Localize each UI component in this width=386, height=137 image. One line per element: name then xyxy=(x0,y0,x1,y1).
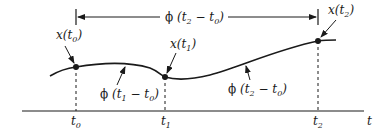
label-x-t0: x(t0) xyxy=(56,28,82,63)
leader-arrow-x-t2 xyxy=(321,20,336,37)
tick-label-t2: t2 xyxy=(313,114,323,130)
point-x-t0 xyxy=(73,64,79,70)
tick-label-t1: t1 xyxy=(161,114,171,130)
svg-text:ϕ (t1 − t0): ϕ (t1 − t0) xyxy=(100,87,159,103)
top-span-indicator: ϕ (t2 − t0) xyxy=(76,9,318,26)
label-phi-t2-t0: ϕ (t2 − t0) xyxy=(228,66,287,98)
axis-label-t: t xyxy=(367,114,372,128)
tick-label-t0: t0 xyxy=(71,114,81,130)
leader-arrow-phi-t2-t0 xyxy=(246,66,250,80)
point-x-t2 xyxy=(315,38,321,44)
svg-text:x(t2): x(t2) xyxy=(328,3,354,19)
leader-arrow-phi-t1-t0 xyxy=(117,67,125,85)
svg-text:x(t0): x(t0) xyxy=(56,28,82,44)
svg-text:x(t1): x(t1) xyxy=(170,37,196,53)
svg-text:ϕ (t2 − t0): ϕ (t2 − t0) xyxy=(228,82,287,98)
point-x-t1 xyxy=(162,74,168,80)
state-transition-diagram: ϕ (t2 − t0) x(t0) x(t1) x(t2) ϕ (t1 − t0… xyxy=(0,0,386,137)
leader-arrow-x-t1 xyxy=(167,53,176,73)
top-span-label: ϕ (t2 − t0) xyxy=(165,10,224,26)
label-x-t1: x(t1) xyxy=(167,37,196,73)
label-phi-t1-t0: ϕ (t1 − t0) xyxy=(100,67,159,103)
label-x-t2: x(t2) xyxy=(321,3,354,37)
leader-arrow-x-t0 xyxy=(65,46,74,63)
